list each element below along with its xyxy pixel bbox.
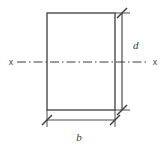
width-label: b xyxy=(76,131,82,143)
axis-label-right: x xyxy=(153,57,158,67)
cross-section-figure: x x d b xyxy=(0,0,166,146)
figure-background xyxy=(0,0,166,146)
depth-label: d xyxy=(133,39,139,51)
axis-label-left: x xyxy=(9,57,14,67)
figure-canvas: x x d b xyxy=(0,0,166,146)
